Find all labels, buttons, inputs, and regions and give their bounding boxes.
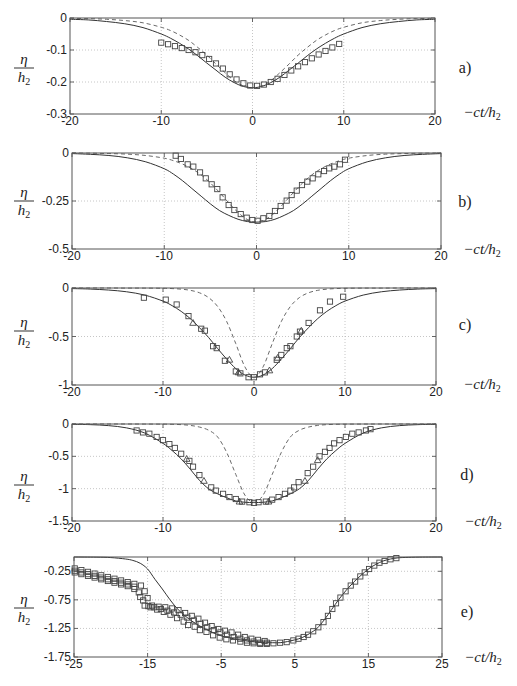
y-tick-label: 0 <box>62 147 69 159</box>
plot-svg <box>74 557 442 657</box>
y-label-denominator: h2 <box>11 69 37 89</box>
grid-lines <box>72 153 441 249</box>
y-tick-label: 0 <box>62 282 69 294</box>
x-tick-label: 20 <box>429 386 442 398</box>
y-label-numerator: η <box>14 592 34 609</box>
x-tick-label: 10 <box>338 386 351 398</box>
dashed-curve <box>70 18 435 87</box>
x-axis-label: −ct/h2 <box>463 241 501 259</box>
grid-lines <box>72 288 436 385</box>
panel-e: η h2 -25-15-551525-0.25-0.75-1.25-1.75 e… <box>0 540 517 675</box>
figure: η h2 -20-10010200-0.1-0.2-0.3 a) −ct/h2 … <box>0 0 517 686</box>
square-markers <box>159 40 342 88</box>
x-label-subscript: 2 <box>496 383 501 394</box>
y-label-denominator: h2 <box>11 609 37 629</box>
x-tick-label: 20 <box>429 522 442 534</box>
y-axis-label: η h2 <box>11 185 37 222</box>
square-markers <box>271 556 399 646</box>
x-tick-label: 10 <box>342 250 355 262</box>
y-label-den-subscript: 2 <box>25 616 30 627</box>
dashed-curve <box>72 153 441 222</box>
panel-d: η h2 -20-10010200-0.5-1-1.5 d) −ct/h2 <box>0 405 517 540</box>
x-tick-label: -10 <box>156 250 173 262</box>
panel-b: η h2 -20-10010200-0.25-0.5 b) −ct/h2 <box>0 135 517 270</box>
square-markers <box>72 570 269 647</box>
panel-c: η h2 -20-10010200-0.5-1 c) −ct/h2 <box>0 270 517 405</box>
x-label-text: −ct/h <box>463 241 496 257</box>
grid-lines <box>70 18 435 114</box>
y-label-numerator: η <box>14 315 34 332</box>
x-tick-label: -10 <box>154 386 171 398</box>
x-tick-label: 10 <box>338 522 351 534</box>
y-tick-label: -0.75 <box>44 594 71 606</box>
x-tick-label: 20 <box>434 250 447 262</box>
x-label-subscript: 2 <box>496 248 501 259</box>
y-tick-label: -0.1 <box>46 44 67 56</box>
x-tick-label: 0 <box>251 522 258 534</box>
y-tick-label: -0.5 <box>48 243 69 255</box>
plot-area: -25-15-551525-0.25-0.75-1.25-1.75 <box>74 557 442 657</box>
y-tick-label: -0.5 <box>48 331 69 343</box>
y-tick-label: -0.3 <box>46 108 67 120</box>
plot-svg <box>70 18 435 114</box>
panel-label: b) <box>458 193 471 211</box>
y-label-denominator: h2 <box>11 486 37 506</box>
plot-area: -20-10010200-0.5-1 <box>72 288 436 385</box>
panel-a: η h2 -20-10010200-0.1-0.2-0.3 a) −ct/h2 <box>0 0 517 135</box>
x-tick-label: 25 <box>435 658 448 670</box>
y-tick-label: -0.5 <box>48 450 69 462</box>
y-label-den-subscript: 2 <box>25 209 30 220</box>
data-series <box>72 556 442 647</box>
y-tick-label: -1 <box>58 379 69 391</box>
x-label-text: −ct/h <box>464 649 497 665</box>
square-markers <box>72 568 269 645</box>
panel-label: e) <box>461 603 473 621</box>
x-axis-label: −ct/h2 <box>464 649 502 667</box>
solid-curve <box>70 19 435 87</box>
plot-svg <box>72 153 441 249</box>
y-tick-label: -1.5 <box>48 515 69 527</box>
x-tick-label: -10 <box>153 115 170 127</box>
x-axis-label: −ct/h2 <box>464 513 502 531</box>
x-axis-label: −ct/h2 <box>463 104 501 122</box>
plot-area: -20-10010200-0.1-0.2-0.3 <box>70 18 435 114</box>
y-label-den-subscript: 2 <box>25 493 30 504</box>
y-axis-label: η h2 <box>11 592 37 629</box>
y-label-denominator: h2 <box>11 202 37 222</box>
plot-area: -20-10010200-0.25-0.5 <box>72 153 441 249</box>
y-label-denominator: h2 <box>11 332 37 352</box>
y-label-den-subscript: 2 <box>25 76 30 87</box>
x-label-text: −ct/h <box>464 513 497 529</box>
y-tick-label: 0 <box>62 418 69 430</box>
panel-label: d) <box>460 466 473 484</box>
panel-label: a) <box>459 59 471 77</box>
x-tick-label: -5 <box>216 658 227 670</box>
grid-lines <box>72 424 436 521</box>
square-markers <box>141 294 345 380</box>
plot-svg <box>72 424 436 521</box>
plot-svg <box>72 288 436 385</box>
y-tick-label: -0.25 <box>42 195 69 207</box>
y-axis-label: η h2 <box>11 315 37 352</box>
y-tick-label: -0.25 <box>44 565 71 577</box>
y-tick-label: -0.2 <box>46 76 67 88</box>
y-label-numerator: η <box>14 469 34 486</box>
y-tick-label: -1.75 <box>44 651 71 663</box>
x-label-subscript: 2 <box>496 111 501 122</box>
x-tick-label: 20 <box>428 115 441 127</box>
x-tick-label: 0 <box>249 115 256 127</box>
y-tick-label: -1.25 <box>44 622 71 634</box>
y-label-numerator: η <box>14 52 34 69</box>
x-tick-label: 5 <box>291 658 298 670</box>
x-label-text: −ct/h <box>463 104 496 120</box>
data-series <box>72 153 441 223</box>
x-tick-label: 0 <box>251 386 258 398</box>
y-tick-label: -1 <box>58 483 69 495</box>
x-label-text: −ct/h <box>463 376 496 392</box>
x-label-subscript: 2 <box>497 656 502 667</box>
y-label-numerator: η <box>14 185 34 202</box>
x-tick-label: 0 <box>253 250 260 262</box>
x-axis-label: −ct/h2 <box>463 376 501 394</box>
y-label-den-subscript: 2 <box>25 339 30 350</box>
square-markers <box>134 427 373 506</box>
